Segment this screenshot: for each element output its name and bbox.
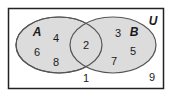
set-a-label: A bbox=[33, 26, 42, 38]
element-a-only: 8 bbox=[53, 57, 59, 68]
element-intersection: 2 bbox=[83, 40, 89, 51]
element-b-only: 7 bbox=[111, 56, 117, 67]
set-b-label: B bbox=[130, 26, 139, 38]
element-a-only: 4 bbox=[53, 33, 59, 44]
element-a-only: 6 bbox=[34, 47, 40, 58]
element-outside: 9 bbox=[149, 72, 155, 83]
element-b-only: 3 bbox=[115, 28, 121, 39]
element-outside: 1 bbox=[83, 73, 89, 84]
universe-label: U bbox=[149, 15, 158, 27]
venn-diagram: U A B 4 6 8 2 3 5 7 1 9 bbox=[0, 0, 172, 92]
element-b-only: 5 bbox=[130, 46, 136, 57]
